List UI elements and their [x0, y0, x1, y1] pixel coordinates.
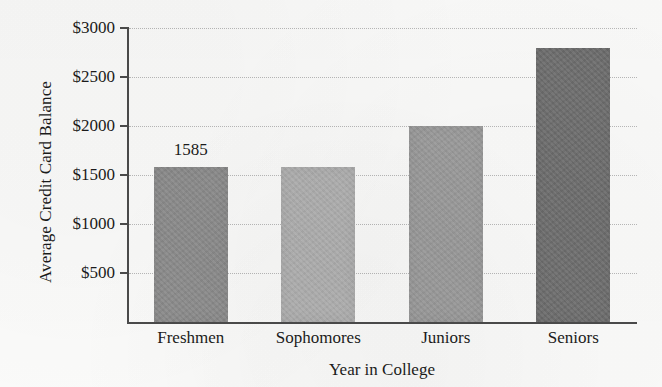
y-axis-tick: [120, 272, 129, 274]
y-axis-tick: [120, 76, 129, 78]
bar: [409, 126, 483, 322]
plot-area: $500$1000$1500$2000$2500$3000 1585 Fresh…: [127, 20, 637, 324]
bar: [281, 167, 355, 322]
y-axis-tick-label: $2500: [73, 67, 116, 87]
y-axis-tick-label: $500: [81, 263, 115, 283]
y-axis-tick-label: $1500: [73, 165, 116, 185]
y-axis-tick-label: $3000: [73, 18, 116, 38]
bar-chart: Average Credit Card Balance $500$1000$15…: [0, 0, 662, 387]
y-axis-tick: [120, 223, 129, 225]
bar: 1585: [154, 167, 228, 322]
x-axis-tick-label: Freshmen: [157, 328, 224, 348]
y-axis-tick-label: $2000: [73, 116, 116, 136]
y-axis-tick: [120, 174, 129, 176]
bar: [536, 48, 610, 322]
x-axis-line: [127, 322, 637, 324]
y-axis-title: Average Credit Card Balance: [36, 32, 56, 332]
y-axis-tick: [120, 125, 129, 127]
x-axis-title: Year in College: [127, 360, 637, 380]
gridline: [129, 28, 637, 30]
x-axis-tick-label: Sophomores: [276, 328, 361, 348]
y-axis-tick: [120, 27, 129, 29]
bar-value-label: 1585: [174, 140, 208, 160]
y-axis-tick-label: $1000: [73, 214, 116, 234]
x-axis-tick-label: Juniors: [421, 328, 470, 348]
x-axis-tick-label: Seniors: [548, 328, 599, 348]
